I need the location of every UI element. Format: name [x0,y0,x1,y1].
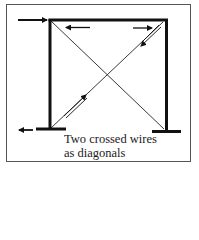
caption-line-2: as diagonals [64,147,184,161]
figure-caption: Two crossed wires as diagonals [64,133,184,160]
diagonal-force-bottom-arrow-icon [64,95,87,118]
caption-line-1: Two crossed wires [64,133,184,147]
